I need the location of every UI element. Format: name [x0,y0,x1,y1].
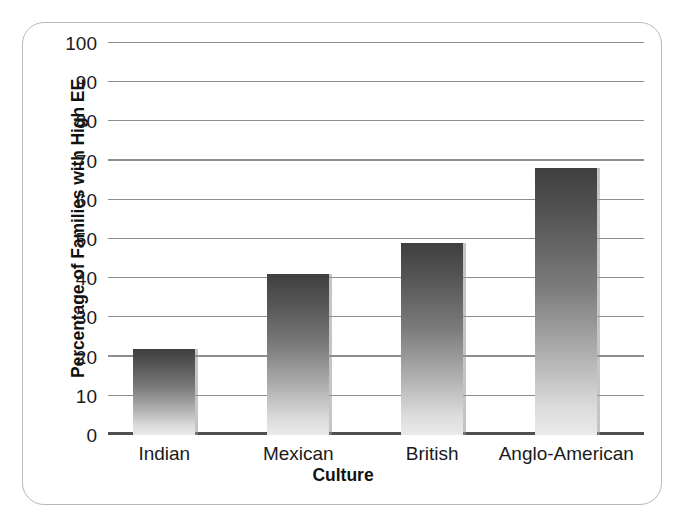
bar [267,274,329,435]
y-axis-tick-label: 60 [76,190,97,209]
y-axis-tick-label: 90 [76,73,97,92]
plot-area: 0102030405060708090100 IndianMexicanBrit… [108,43,644,435]
y-axis-tick-label: 70 [76,151,97,170]
x-axis-category-label: Anglo-American [499,444,634,463]
y-axis-tick-label: 40 [76,269,97,288]
x-axis-title: Culture [23,465,663,486]
bar-series [108,43,644,435]
x-axis-category-label: British [406,444,459,463]
bar [535,168,597,435]
y-axis-tick-label: 20 [76,347,97,366]
y-axis-tick-label: 10 [76,386,97,405]
y-axis-tick-label: 0 [86,426,97,445]
y-axis-tick-label: 80 [76,112,97,131]
x-axis-category-label: Mexican [263,444,334,463]
bar [401,243,463,435]
x-axis-category-label: Indian [138,444,190,463]
figure-frame: Percentage of Families with High EE 0102… [22,22,662,505]
figure-caption [48,518,648,530]
y-axis-tick-label: 50 [76,230,97,249]
y-axis-tick-label: 30 [76,308,97,327]
y-axis-tick-label: 100 [65,34,97,53]
bar [133,349,195,435]
